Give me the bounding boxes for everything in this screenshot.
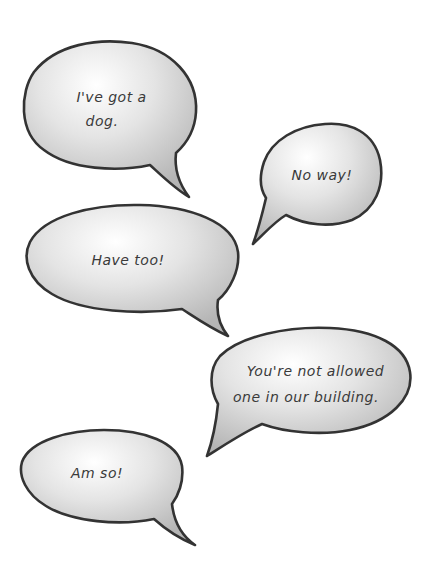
svg-text:Am so!: Am so! (70, 465, 123, 481)
bubble-1-line-1: I've got a (76, 89, 146, 105)
bubble-4-line-1: You're not allowed (247, 363, 384, 379)
bubble-2-line-1: No way! (292, 167, 353, 183)
speech-bubble-shape (27, 205, 239, 336)
bubble-4-line-2: one in our building. (233, 389, 379, 405)
speech-bubble-2: No way! (253, 124, 381, 244)
svg-text:No way!: No way! (292, 167, 353, 183)
svg-text:Have too!: Have too! (91, 252, 164, 268)
speech-bubble-shape (253, 124, 381, 244)
speech-bubble-1: I've got a dog. (24, 41, 196, 197)
bubble-3-line-1: Have too! (91, 252, 164, 268)
speech-bubble-shape (21, 430, 195, 545)
speech-bubble-4: You're not allowed one in our building. (207, 328, 410, 456)
speech-bubble-5: Am so! (21, 430, 195, 545)
speech-bubble-3: Have too! (27, 205, 239, 336)
bubble-1-line-2: dog. (86, 113, 119, 129)
bubble-5-line-1: Am so! (70, 465, 123, 481)
conversation-canvas: I've got a dog. No way! Have too! You're… (0, 0, 440, 581)
